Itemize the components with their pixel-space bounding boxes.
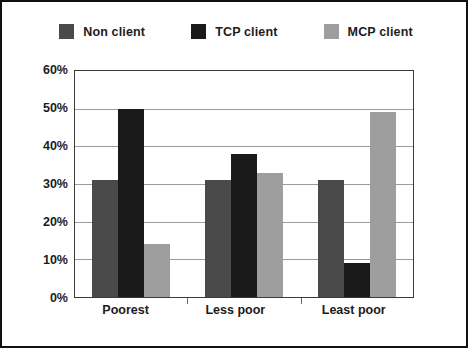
bar — [370, 112, 396, 297]
legend-label: MCP client — [348, 25, 413, 39]
bar — [205, 180, 231, 297]
x-axis-tick-label: Least poor — [322, 303, 386, 317]
legend-label: Non client — [83, 25, 145, 39]
y-axis-tick-label: 50% — [6, 101, 68, 115]
bar-group — [318, 71, 396, 297]
x-axis-tick-mark — [301, 298, 302, 304]
x-axis-tick-mark — [187, 298, 188, 304]
bar — [257, 173, 283, 297]
bar — [344, 263, 370, 297]
y-axis-labels: 0%10%20%30%40%50%60% — [2, 70, 68, 298]
x-axis-tick-label: Poorest — [102, 303, 149, 317]
bar-group — [92, 71, 170, 297]
bar — [318, 180, 344, 297]
legend-entry: TCP client — [191, 24, 277, 39]
y-axis-tick-label: 30% — [6, 177, 68, 191]
chart-figure: Non clientTCP clientMCP client 0%10%20%3… — [0, 0, 468, 348]
bar-groups — [75, 71, 413, 297]
y-axis-tick-label: 40% — [6, 139, 68, 153]
legend-swatch-tcp-client — [191, 24, 206, 39]
legend-swatch-mcp-client — [324, 24, 339, 39]
chart-legend: Non clientTCP clientMCP client — [2, 24, 468, 39]
bar — [92, 180, 118, 297]
bar — [118, 109, 144, 297]
x-axis-tick-label: Less poor — [205, 303, 265, 317]
legend-swatch-non-client — [59, 24, 74, 39]
bar-group — [205, 71, 283, 297]
bar — [144, 244, 170, 297]
x-axis-labels: PoorestLess poorLeast poor — [74, 303, 414, 317]
legend-entry: Non client — [59, 24, 145, 39]
legend-label: TCP client — [215, 25, 277, 39]
legend-entry: MCP client — [324, 24, 413, 39]
y-axis-tick-label: 60% — [6, 63, 68, 77]
bar — [231, 154, 257, 297]
y-axis-tick-label: 20% — [6, 215, 68, 229]
y-axis-tick-label: 10% — [6, 253, 68, 267]
y-axis-tick-label: 0% — [6, 291, 68, 305]
plot-area — [74, 70, 414, 298]
